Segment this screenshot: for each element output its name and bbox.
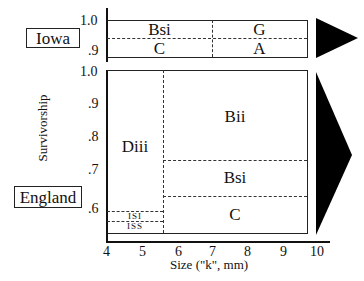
- direction-arrows: [0, 0, 364, 281]
- england-arrow-icon: [316, 72, 352, 235]
- iowa-arrow-icon: [316, 18, 358, 58]
